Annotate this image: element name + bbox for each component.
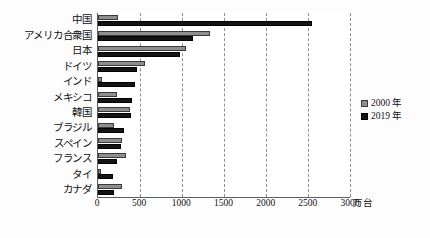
category-label: 韓国 xyxy=(0,106,96,121)
bar-group xyxy=(98,182,350,197)
plot-area xyxy=(97,13,350,198)
x-tick-label: 2000 xyxy=(256,199,275,209)
bar[interactable] xyxy=(98,174,113,179)
category-label: メキシコ xyxy=(0,90,96,105)
legend-label: 2019 年 xyxy=(371,112,402,122)
bar-chart: 中国 アメリカ合衆国 日本 ドイツ インド メキシコ 韓国 ブラジル スペイン … xyxy=(0,0,430,238)
category-label: 中国 xyxy=(0,13,96,28)
legend-swatch-icon xyxy=(361,113,368,120)
bar-group xyxy=(98,120,350,135)
bar[interactable] xyxy=(98,159,117,164)
bar[interactable] xyxy=(98,21,312,26)
bar[interactable] xyxy=(98,128,124,133)
bar[interactable] xyxy=(98,153,126,158)
bar[interactable] xyxy=(98,169,101,174)
legend-item-2000[interactable]: 2000 年 xyxy=(361,99,402,109)
bar[interactable] xyxy=(98,67,137,72)
gridline xyxy=(350,13,351,197)
x-tick-label: 2500 xyxy=(298,199,317,209)
category-label: 日本 xyxy=(0,44,96,59)
bar[interactable] xyxy=(98,138,122,143)
bar[interactable] xyxy=(98,15,118,20)
bar[interactable] xyxy=(98,144,121,149)
legend-item-2019[interactable]: 2019 年 xyxy=(361,112,402,122)
category-label: タイ xyxy=(0,167,96,182)
category-label: アメリカ合衆国 xyxy=(0,28,96,43)
bar[interactable] xyxy=(98,123,114,128)
x-axis-unit-label: 万台 xyxy=(353,199,373,209)
bar[interactable] xyxy=(98,98,132,103)
x-tick-label: 500 xyxy=(132,199,146,209)
category-label: フランス xyxy=(0,152,96,167)
bar-group xyxy=(98,44,350,59)
bar[interactable] xyxy=(98,92,117,97)
category-label: インド xyxy=(0,75,96,90)
bar[interactable] xyxy=(98,52,180,57)
bar-group xyxy=(98,28,350,43)
category-label: スペイン xyxy=(0,136,96,151)
bar-group xyxy=(98,166,350,181)
bar[interactable] xyxy=(98,46,186,51)
category-label: ドイツ xyxy=(0,59,96,74)
bar-group xyxy=(98,151,350,166)
x-axis: 050010001500200025003000 xyxy=(97,199,350,215)
bar[interactable] xyxy=(98,184,122,189)
bar[interactable] xyxy=(98,77,102,82)
bar-group xyxy=(98,59,350,74)
bar-group xyxy=(98,136,350,151)
bar[interactable] xyxy=(98,31,210,36)
bar[interactable] xyxy=(98,190,114,195)
legend-swatch-icon xyxy=(361,100,368,107)
bar[interactable] xyxy=(98,82,135,87)
bar[interactable] xyxy=(98,113,131,118)
category-label: ブラジル xyxy=(0,121,96,136)
x-tick-label: 0 xyxy=(95,199,100,209)
bar-group xyxy=(98,13,350,28)
bar[interactable] xyxy=(98,61,145,66)
category-axis: 中国 アメリカ合衆国 日本 ドイツ インド メキシコ 韓国 ブラジル スペイン … xyxy=(0,13,96,198)
bar-group xyxy=(98,74,350,89)
bar-group xyxy=(98,90,350,105)
legend-label: 2000 年 xyxy=(371,99,402,109)
bar-group xyxy=(98,105,350,120)
bars-layer xyxy=(98,13,350,197)
chart-legend: 2000 年 2019 年 xyxy=(361,99,402,121)
bar[interactable] xyxy=(98,36,193,41)
bar[interactable] xyxy=(98,107,130,112)
category-label: カナダ xyxy=(0,183,96,198)
x-tick-label: 1500 xyxy=(214,199,233,209)
x-tick-label: 1000 xyxy=(172,199,191,209)
